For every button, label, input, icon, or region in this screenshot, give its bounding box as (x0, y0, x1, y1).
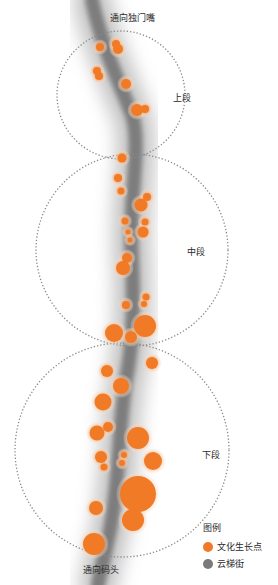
label-lower-section: 下段 (202, 451, 220, 460)
culture-point-node (116, 261, 130, 275)
culture-point-node (122, 509, 144, 531)
culture-point-node (121, 79, 131, 89)
label-middle-section: 中段 (187, 248, 205, 257)
culture-point-node (146, 357, 158, 369)
legend-item-culture-point: 文化生长点 (203, 540, 262, 553)
culture-point-node (138, 227, 149, 238)
culture-point-node (134, 315, 156, 337)
orange-dot-icon (203, 542, 213, 552)
culture-point-node (118, 154, 127, 163)
legend-title: 图例 (203, 521, 262, 534)
culture-point-node (128, 238, 133, 243)
culture-point-node (141, 301, 147, 307)
culture-point-node (118, 188, 125, 195)
label-bottom-entry: 通向码头 (83, 566, 119, 575)
legend: 图例 文化生长点 云梯街 (203, 521, 262, 574)
culture-point-node (95, 451, 107, 463)
culture-point-node (144, 452, 162, 470)
gray-dot-icon (203, 559, 213, 569)
culture-point-node (127, 427, 149, 449)
street-diagram (0, 0, 278, 585)
culture-point-node (122, 218, 129, 225)
culture-point-node (141, 105, 149, 113)
culture-point-node (125, 331, 137, 343)
label-upper-section: 上段 (173, 94, 191, 103)
culture-point-node (101, 365, 113, 377)
culture-point-node (120, 476, 156, 512)
culture-point-node (95, 394, 112, 411)
culture-point-node (105, 324, 123, 342)
culture-point-node (126, 230, 131, 235)
culture-point-node (101, 464, 108, 471)
culture-point-node (90, 426, 105, 441)
culture-point-node (143, 294, 150, 301)
culture-point-node (83, 533, 105, 555)
culture-point-node (113, 378, 129, 394)
culture-point-node (121, 452, 127, 458)
legend-label: 云梯街 (217, 557, 244, 570)
culture-point-node (119, 460, 125, 466)
culture-point-node (96, 43, 104, 51)
culture-point-node (122, 301, 130, 309)
culture-point-node (103, 422, 113, 432)
culture-point-node (135, 199, 148, 212)
legend-item-street: 云梯街 (203, 557, 262, 570)
culture-point-node (113, 44, 123, 54)
culture-point-node (89, 501, 103, 515)
culture-point-node (142, 219, 149, 226)
label-top-entry: 通向独门嘴 (110, 14, 155, 23)
culture-point-node (95, 72, 103, 80)
culture-point-node (114, 174, 122, 182)
legend-label: 文化生长点 (217, 540, 262, 553)
